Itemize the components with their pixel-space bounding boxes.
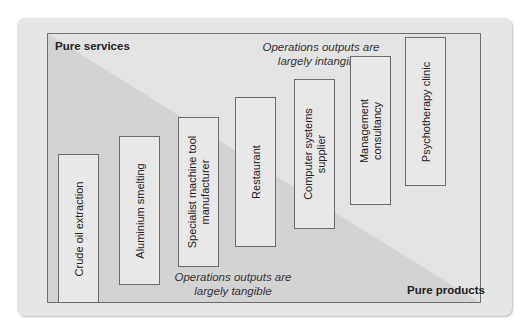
item-label: Crude oil extraction [72,181,85,276]
item-label: Management consultancy [358,98,384,162]
item-label: Specialist machine tool manufacturer [186,136,212,249]
tangible-annotation: Operations outputs are largely tangible [168,270,298,298]
item-restaurant: Restaurant [235,97,276,247]
item-label-line-1: Specialist machine tool [186,136,199,249]
item-label-line-2: supplier [315,108,328,200]
tangible-line-2: largely tangible [168,284,298,298]
item-label: Restaurant [249,145,262,199]
item-aluminium-smelting: Aluminium smelting [119,136,160,285]
item-label: Psychotherapy clinic [419,61,432,161]
item-computer-systems-supplier: Computer systems supplier [294,79,335,229]
tangible-line-1: Operations outputs are [168,270,298,284]
item-label-line-1: Computer systems [302,108,315,200]
item-label-line-2: consultancy [371,98,384,162]
intangible-line-1: Operations outputs are [236,40,406,54]
pure-products-label: Pure products [407,284,485,296]
item-label: Aluminium smelting [133,163,146,258]
item-label-line-1: Management [358,98,371,162]
item-management-consultancy: Management consultancy [350,56,391,205]
pure-services-label: Pure services [55,40,130,52]
item-label-line-2: manufacturer [199,136,212,249]
item-specialist-machine-tool-manufacturer: Specialist machine tool manufacturer [178,117,219,267]
item-psychotherapy-clinic: Psychotherapy clinic [405,37,446,186]
item-label: Computer systems supplier [302,108,328,200]
item-crude-oil-extraction: Crude oil extraction [58,154,99,303]
